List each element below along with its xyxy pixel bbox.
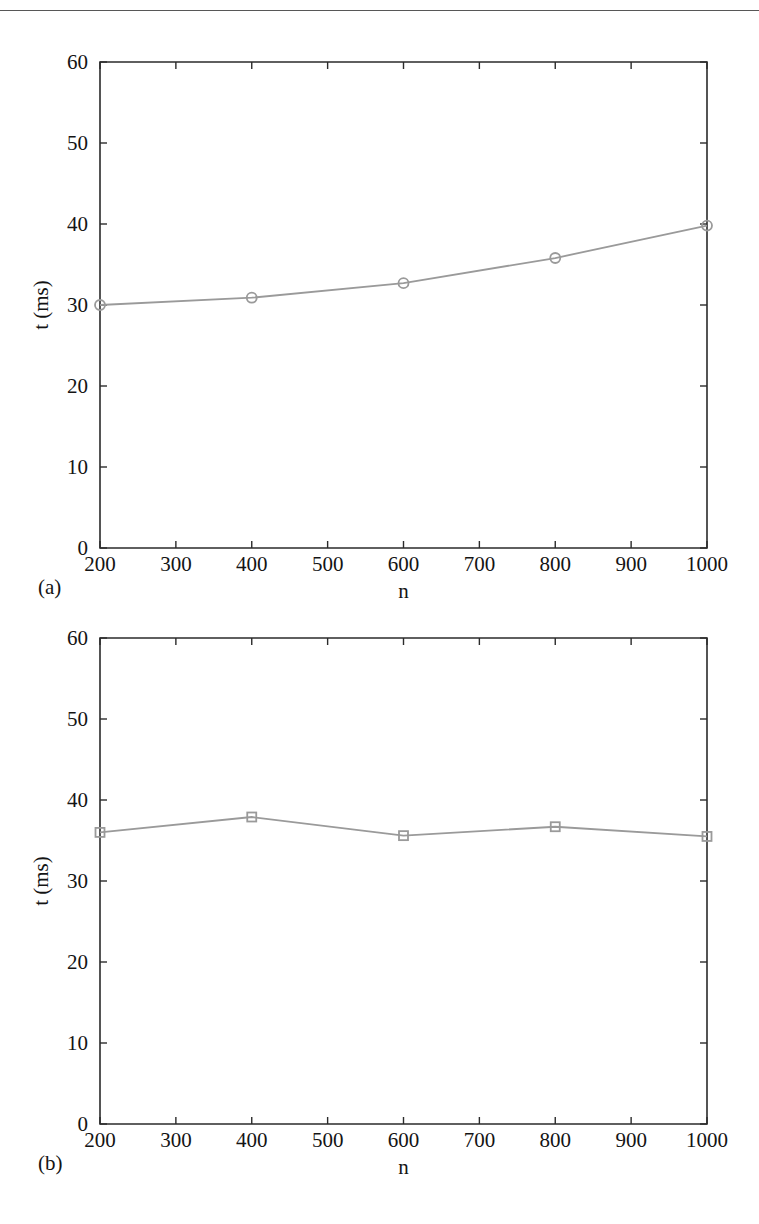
y-axis-label: t (ms) (29, 280, 53, 330)
x-tick-label: 400 (236, 1128, 268, 1152)
x-tick-label: 600 (388, 552, 420, 576)
x-tick-label: 600 (388, 1128, 420, 1152)
axis-frame (100, 62, 707, 548)
panel-label: (b) (38, 1151, 63, 1175)
y-axis-label: t (ms) (29, 856, 53, 906)
x-tick-label: 900 (615, 1128, 647, 1152)
x-tick-label: 200 (84, 1128, 116, 1152)
y-tick-label: 20 (67, 374, 88, 398)
x-tick-label: 300 (160, 552, 192, 576)
x-tick-label: 700 (464, 1128, 496, 1152)
y-tick-label: 60 (67, 626, 88, 650)
page-header-rule (0, 10, 759, 11)
plot-area-a: 2003004005006007008009001000010203040506… (0, 22, 759, 612)
y-tick-label: 30 (67, 869, 88, 893)
y-tick-label: 10 (67, 455, 88, 479)
x-tick-label: 400 (236, 552, 268, 576)
figure-panel-a: 2003004005006007008009001000010203040506… (0, 22, 759, 612)
panel-label: (a) (38, 575, 61, 599)
x-tick-label: 1000 (686, 1128, 728, 1152)
x-tick-label: 500 (312, 552, 344, 576)
x-axis-label: n (398, 1155, 409, 1179)
chart-svg-b: 2003004005006007008009001000010203040506… (0, 598, 759, 1218)
axis-frame (100, 638, 707, 1124)
x-tick-label: 700 (464, 552, 496, 576)
y-tick-label: 40 (67, 212, 88, 236)
y-tick-label: 50 (67, 131, 88, 155)
chart-svg-a: 2003004005006007008009001000010203040506… (0, 22, 759, 612)
y-tick-label: 0 (78, 1112, 89, 1136)
x-tick-label: 1000 (686, 552, 728, 576)
x-tick-label: 900 (615, 552, 647, 576)
x-tick-label: 200 (84, 552, 116, 576)
y-tick-label: 30 (67, 293, 88, 317)
x-tick-label: 500 (312, 1128, 344, 1152)
y-tick-label: 10 (67, 1031, 88, 1055)
series-line (100, 817, 707, 836)
x-tick-label: 800 (540, 1128, 572, 1152)
x-tick-label: 300 (160, 1128, 192, 1152)
x-tick-label: 800 (540, 552, 572, 576)
y-tick-label: 20 (67, 950, 88, 974)
y-tick-label: 40 (67, 788, 88, 812)
y-tick-label: 60 (67, 50, 88, 74)
y-tick-label: 50 (67, 707, 88, 731)
y-tick-label: 0 (78, 536, 89, 560)
figure-panel-b: 2003004005006007008009001000010203040506… (0, 598, 759, 1218)
series-line (100, 226, 707, 305)
plot-area-b: 2003004005006007008009001000010203040506… (0, 598, 759, 1218)
